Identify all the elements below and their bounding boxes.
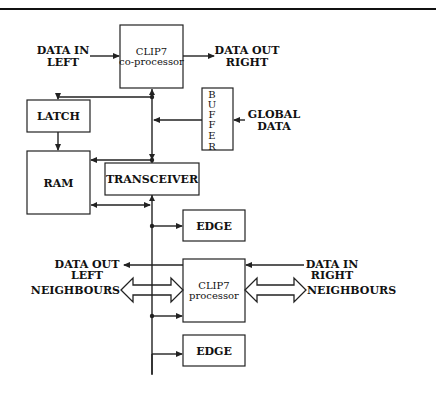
data-in-left-label: DATA IN LEFT (37, 44, 90, 69)
clip7-processor-block: CLIP7 processor (183, 259, 245, 322)
bus-to-latch-wire (58, 97, 152, 99)
data-out-right-label: DATA OUT RIGHT (215, 44, 281, 69)
bus-to-ram-arrowhead (91, 202, 97, 208)
transceiver-block: TRANSCEIVER (105, 163, 199, 195)
global-data-label: GLOBAL DATA (248, 108, 301, 133)
svg-text:LATCH: LATCH (37, 110, 80, 123)
clip7-coprocessor-block: CLIP7 co-processor (119, 25, 184, 88)
svg-text:R: R (208, 141, 216, 152)
svg-text:E: E (208, 130, 215, 141)
clip7-block-diagram: CLIP7 co-processor DATA IN LEFT DATA OUT… (0, 0, 440, 394)
neighbours-right-label: NEIGHBOURS (307, 284, 396, 297)
latch-block: LATCH (27, 100, 90, 132)
data-in-right-label: DATA IN RIGHT (306, 258, 359, 282)
neighbours-left-label: NEIGHBOURS (31, 284, 120, 297)
neighbours-right-double-arrow (245, 278, 306, 302)
ram-block: RAM (27, 151, 90, 214)
svg-text:RAM: RAM (44, 177, 74, 190)
bus-down-arrow (149, 154, 155, 160)
svg-text:LEFT: LEFT (47, 56, 80, 69)
edge-bottom-block: EDGE (183, 335, 245, 366)
svg-text:EDGE: EDGE (196, 220, 232, 233)
data-out-left-label: DATA OUT LEFT (55, 258, 121, 282)
svg-text:processor: processor (189, 290, 239, 301)
svg-text:LEFT: LEFT (71, 269, 104, 282)
svg-text:DATA: DATA (257, 120, 291, 133)
svg-text:RIGHT: RIGHT (226, 56, 269, 69)
svg-text:EDGE: EDGE (196, 345, 232, 358)
edge-top-block: EDGE (183, 210, 245, 241)
bus-to-transceiver-arrow (149, 195, 155, 201)
svg-text:TRANSCEIVER: TRANSCEIVER (106, 173, 199, 186)
svg-text:RIGHT: RIGHT (311, 269, 354, 282)
buffer-block: B U F F E R (202, 88, 233, 152)
bus-to-coprocessor-arrow (149, 89, 155, 95)
svg-text:F: F (209, 119, 216, 130)
coprocessor-subtitle: co-processor (119, 56, 184, 67)
